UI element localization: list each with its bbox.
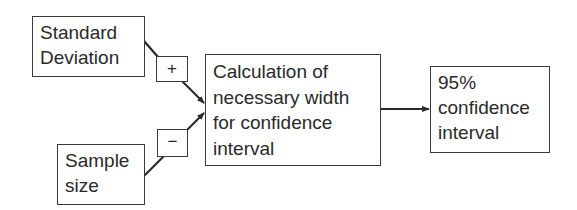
node-text: Standard [40,20,137,45]
size-arrow [187,113,204,130]
standard-deviation-node: Standard Deviation [32,16,145,77]
node-text: interval [213,136,373,162]
node-text: size [65,173,137,198]
plus-sign: + [167,59,177,78]
node-text: Calculation of [213,59,373,85]
minus-sign: − [168,132,178,151]
sample-size-node: Sample size [57,144,145,205]
calculation-node: Calculation of necessary width for confi… [205,54,381,166]
node-text: interval [438,120,542,145]
node-text: for confidence [213,110,373,136]
node-text: confidence [438,95,542,120]
size-connector [144,156,164,176]
positive-sign-label: + [156,56,188,82]
node-text: 95% [438,70,542,95]
negative-sign-label: − [157,129,188,157]
node-text: Sample [65,148,137,173]
confidence-interval-result-node: 95% confidence interval [430,66,550,153]
node-text: necessary width [213,85,373,111]
sd-connector [144,41,158,57]
node-text: Deviation [40,45,137,70]
sd-arrow [182,81,204,103]
